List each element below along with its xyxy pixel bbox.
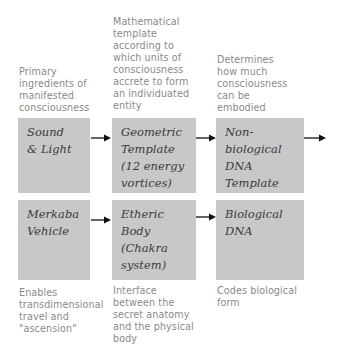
arrow-right-icon [196, 134, 216, 142]
box-biological-dna: Biological DNA [216, 200, 304, 280]
box-sound-light: Sound & Light [18, 118, 90, 193]
box-label: Non- biological DNA Template [225, 124, 304, 192]
box-label: Biological DNA [225, 206, 304, 240]
box-label: Merkaba Vehicle [27, 206, 90, 240]
arrow-right-icon [304, 134, 326, 142]
caption-primary-ingredients: Primary ingredients of manifested consci… [19, 66, 89, 114]
box-etheric-body: Etheric Body (Chakra system) [112, 200, 196, 280]
box-label: Etheric Body (Chakra system) [121, 206, 196, 274]
arrow-right-icon [91, 134, 111, 142]
caption-mathematical-template: Mathematical template according to which… [113, 16, 189, 112]
box-label: Sound & Light [27, 124, 90, 158]
arrow-right-icon [91, 216, 111, 224]
box-merkaba-vehicle: Merkaba Vehicle [18, 200, 90, 280]
arrow-right-icon [196, 213, 216, 221]
caption-enables-transdimensional: Enables transdimensional travel and "asc… [19, 287, 104, 335]
caption-codes-biological-form: Codes biological form [217, 285, 297, 309]
box-geometric-template: Geometric Template (12 energy vortices) [112, 118, 196, 193]
caption-interface-secret-anatomy: Interface between the secret anatomy and… [113, 285, 194, 345]
caption-determines-consciousness: Determines how much consciousness can be… [217, 54, 287, 114]
box-non-biological-dna-template: Non- biological DNA Template [216, 118, 304, 193]
box-label: Geometric Template (12 energy vortices) [121, 124, 196, 192]
